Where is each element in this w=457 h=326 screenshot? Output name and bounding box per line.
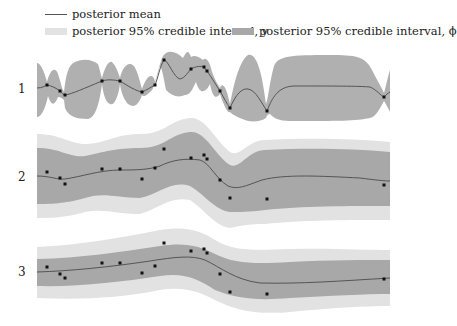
panel-2 [37,118,390,228]
panel-3 [37,228,390,312]
panel-1 [37,52,390,122]
